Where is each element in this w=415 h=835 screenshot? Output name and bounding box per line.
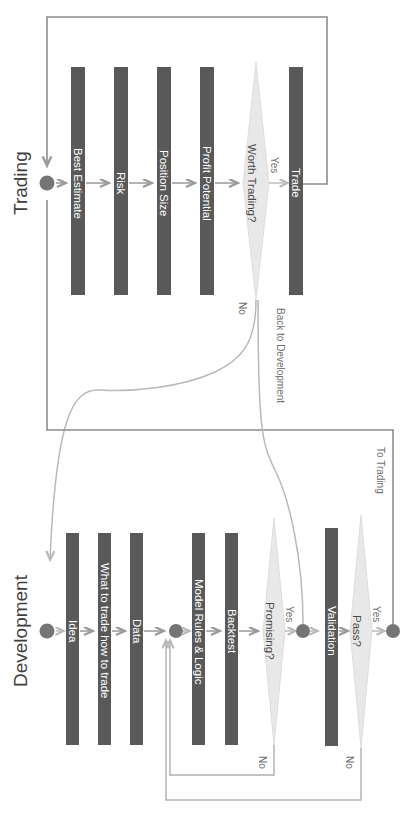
- node-trade-label: Trade: [290, 168, 302, 198]
- lane-title-development: Development: [10, 575, 32, 687]
- lane-title-trading: Trading: [10, 151, 32, 215]
- edge-label-promising-yes: Yes: [284, 606, 295, 622]
- node-promising-label: Promising?: [264, 602, 276, 660]
- node-profit-potential-label: Profit Potential: [201, 146, 213, 221]
- node-data-label: Data: [131, 619, 143, 643]
- development-merge-node-1: [169, 624, 183, 638]
- edge-label-trading-no: No: [237, 302, 248, 315]
- flowchart-svg: [0, 0, 415, 835]
- development-merge-node-2: [296, 624, 310, 638]
- edge-promising-no: [170, 640, 274, 775]
- development-end-node: [386, 624, 400, 638]
- node-what-to-trade-label: What to trade how to trade: [99, 563, 111, 699]
- flowchart-canvas: TradingDevelopmentBest EstimateRiskPosit…: [0, 0, 415, 835]
- node-worth-trading-label: Worth Trading?: [246, 144, 258, 222]
- node-backtest-label: Backtest: [226, 609, 238, 653]
- node-pass-label: Pass?: [351, 615, 363, 647]
- node-position-size-label: Position Size: [158, 150, 170, 216]
- node-validation-label: Validation: [326, 606, 338, 656]
- edge-label-trading-yes: Yes: [269, 157, 280, 173]
- node-best-estimate-label: Best Estimate: [72, 148, 84, 219]
- node-model-rules-label: Model Rules & Logic: [193, 579, 205, 684]
- trading-return-edge: [47, 17, 327, 184]
- edge-label-pass-yes: Yes: [371, 606, 382, 622]
- node-risk-label: Risk: [115, 172, 127, 194]
- edge-label-pass-no: No: [344, 756, 355, 769]
- edge-label-back-to-development: Back to Development: [275, 308, 286, 403]
- trading-start-node: [40, 176, 55, 191]
- edge-label-to-trading: To Trading: [375, 447, 386, 494]
- edge-label-promising-no: No: [257, 756, 268, 769]
- development-start-node: [40, 624, 55, 639]
- node-idea-label: Idea: [67, 620, 79, 642]
